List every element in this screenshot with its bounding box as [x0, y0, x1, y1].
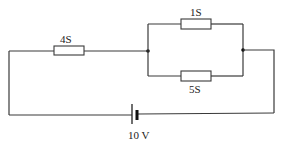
circuit-diagram: 4S 1S 5S 10 V	[0, 0, 281, 144]
resistor-4s	[54, 46, 84, 55]
wire-right	[243, 50, 274, 113]
resistor-4s-label: 4S	[60, 33, 72, 45]
wire-bottom-right	[138, 113, 274, 114]
resistor-1s	[181, 19, 211, 29]
battery-voltage-label: 10 V	[128, 129, 150, 141]
resistor-1s-label: 1S	[190, 6, 202, 18]
battery-negative-plate	[136, 110, 139, 120]
resistor-5s-label: 5S	[189, 83, 201, 95]
resistor-5s	[181, 71, 211, 81]
